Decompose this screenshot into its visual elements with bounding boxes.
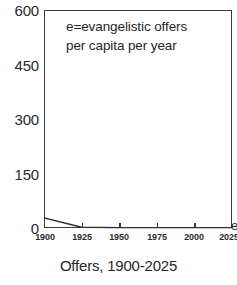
y-axis-tick-label-600: 600 (1, 3, 39, 18)
x-axis-tick-label-2000: 2000 (174, 233, 214, 242)
series-end-label: e (231, 219, 237, 232)
x-axis-tickmark-1925 (82, 223, 84, 228)
x-axis-tick-label-1975: 1975 (137, 233, 177, 242)
x-axis-tick-label-1900: 1900 (25, 233, 65, 242)
x-axis-tick-label-1950: 1950 (99, 233, 139, 242)
x-axis-tickmark-2000 (194, 223, 196, 228)
chart-figure: 600 450 300 150 0 e=evangelistic offers … (0, 0, 237, 285)
y-axis-tick-label-450: 450 (1, 58, 39, 73)
y-axis-tick-label-300: 300 (1, 112, 39, 127)
y-axis-tick-label-150: 150 (1, 167, 39, 182)
x-axis-tickmark-1950 (119, 223, 121, 228)
x-axis-tickmark-1975 (157, 223, 159, 228)
chart-caption: Offers, 1900-2025 (0, 258, 237, 273)
chart-annotation: e=evangelistic offers per capita per yea… (66, 17, 187, 55)
x-axis-tick-label-1925: 1925 (62, 233, 102, 242)
x-axis-tick-label-2025: 2025 (209, 233, 237, 242)
